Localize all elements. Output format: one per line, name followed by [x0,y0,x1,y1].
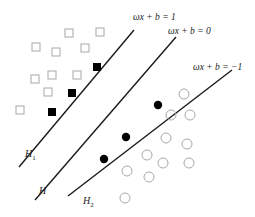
svm-diagram: ωx + b = 1H1ωx + b = 0Hωx + b = −1H2 [0,0,255,217]
circle-point [158,158,168,168]
support-vector-square [68,89,76,97]
positive-class-squares [16,28,104,116]
square-point [32,43,40,51]
equation-h-label: ωx + b = 0 [168,26,211,36]
square-point [31,75,39,83]
square-point [96,28,104,36]
hyperplane-h2-name: H2 [82,195,94,209]
circle-point [185,110,195,120]
equation-h1-label: ωx + b = 1 [133,12,176,22]
circle-point [144,172,154,182]
square-point [81,44,89,52]
square-point [73,71,81,79]
support-vector-circle [154,101,162,109]
circle-point [122,166,132,176]
negative-class-circles [100,89,195,203]
support-vector-square [93,63,101,71]
square-point [44,88,52,96]
hyperplane-h-line [35,37,176,200]
square-point [52,48,60,56]
square-point [48,71,56,79]
square-point [65,29,73,37]
circle-point [184,158,194,168]
support-vector-circle [122,133,130,141]
support-vector-circle [100,155,108,163]
circle-point [179,89,189,99]
hyperplane-h-name: H [38,185,47,196]
equation-h2-label: ωx + b = −1 [193,62,242,72]
support-vector-square [48,108,56,116]
hyperplane-labels: ωx + b = 1H1ωx + b = 0Hωx + b = −1H2 [24,12,242,209]
square-point [16,106,24,114]
circle-point [182,139,192,149]
circle-point [161,133,171,143]
circle-point [142,150,152,160]
circle-point [120,193,130,203]
